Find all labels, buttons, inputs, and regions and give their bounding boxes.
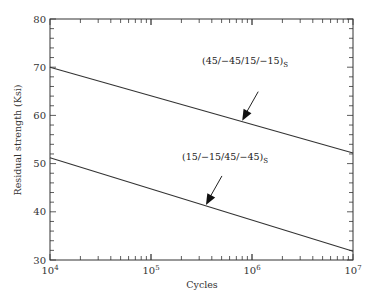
x-axis-title: Cycles <box>186 279 218 290</box>
series-label-2: (15/−15/45/−45)S <box>182 151 268 165</box>
chart: 304050607080104105106107 (45/−45/15/−15)… <box>0 0 378 304</box>
x-tick-label: 105 <box>142 264 159 276</box>
series-line-2 <box>50 158 353 252</box>
y-tick-label: 30 <box>33 255 46 266</box>
y-tick-label: 70 <box>33 62 46 73</box>
y-tick-label: 50 <box>33 158 46 169</box>
series-line-1 <box>50 67 353 153</box>
y-tick-label: 40 <box>33 206 46 217</box>
tick-labels: 304050607080104105106107 <box>33 14 361 277</box>
arrow-head-1 <box>242 109 251 121</box>
series-label-1: (45/−45/15/−15)S <box>202 55 288 69</box>
x-tick-label: 107 <box>344 264 361 276</box>
x-tick-label: 106 <box>243 264 261 276</box>
y-axis-title: Residual strength (Ksi) <box>12 84 23 195</box>
x-tick-label: 104 <box>41 264 59 276</box>
arrow-head-2 <box>206 193 215 205</box>
y-tick-label: 80 <box>33 14 46 25</box>
y-tick-label: 60 <box>33 110 46 121</box>
